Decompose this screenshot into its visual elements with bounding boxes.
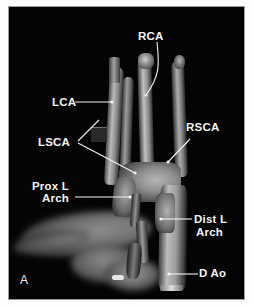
vessel-dist-left-arch (155, 193, 175, 233)
angiogram-figure: RCA LCA LSCA RSCA Prox L Arch Dist L Arc… (0, 0, 253, 307)
annotation-label-lsca: LSCA (38, 136, 70, 149)
annotation-label-dist-arch-line2: Arch (196, 226, 223, 239)
bright-speck (112, 275, 124, 280)
annotation-label-rca: RCA (138, 30, 164, 43)
annotation-label-rsca: RSCA (186, 121, 219, 134)
image-frame: RCA LCA LSCA RSCA Prox L Arch Dist L Arc… (9, 7, 244, 299)
annotation-label-dist-arch-line1: Dist L (194, 213, 227, 226)
panel-label: A (20, 273, 28, 287)
annotation-label-lca: LCA (52, 96, 76, 109)
faint-marker-rect (91, 127, 107, 142)
vessel-bottom-nub (160, 285, 183, 291)
annotation-label-d-ao: D Ao (199, 267, 226, 280)
annotation-label-prox-arch-line2: Arch (42, 192, 69, 205)
vessel-lca-upper (109, 57, 120, 83)
annotation-label-prox-arch-line1: Prox L (32, 180, 69, 193)
vessel-rsca-top (174, 55, 185, 69)
vessel-rca-cap (138, 53, 154, 69)
vessel-rsca (171, 61, 188, 177)
scan-image (9, 7, 244, 299)
